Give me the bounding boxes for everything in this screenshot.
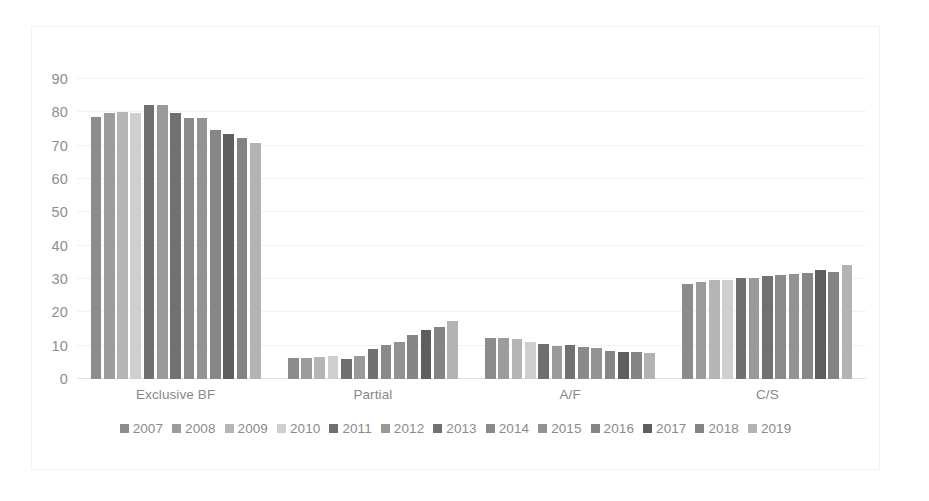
bar-2009-partial[interactable] xyxy=(314,357,325,379)
bar-2010-a-f[interactable] xyxy=(525,342,536,379)
bar-2011-c-s[interactable] xyxy=(736,278,747,379)
bar-2019-exclusive-bf[interactable] xyxy=(250,143,261,379)
legend-swatch-icon-2009 xyxy=(225,424,234,433)
legend-item-2016[interactable]: 2016 xyxy=(591,421,634,436)
bar-2019-partial[interactable] xyxy=(447,321,458,379)
legend-item-2007[interactable]: 2007 xyxy=(120,421,163,436)
bar-2012-a-f[interactable] xyxy=(552,346,563,379)
bar-2009-exclusive-bf[interactable] xyxy=(117,112,128,379)
y-tick-label-80: 80 xyxy=(51,104,68,120)
bar-2007-exclusive-bf[interactable] xyxy=(91,117,102,379)
legend-swatch-icon-2016 xyxy=(591,424,600,433)
bar-2015-partial[interactable] xyxy=(394,342,405,379)
bar-2016-partial[interactable] xyxy=(407,335,418,379)
bar-2008-a-f[interactable] xyxy=(498,338,509,379)
bar-2011-exclusive-bf[interactable] xyxy=(144,105,155,379)
bar-2018-a-f[interactable] xyxy=(631,352,642,379)
legend-label-2017: 2017 xyxy=(656,421,686,436)
bar-2012-c-s[interactable] xyxy=(749,278,760,379)
legend-swatch-icon-2015 xyxy=(538,424,547,433)
bar-2013-a-f[interactable] xyxy=(565,345,576,379)
bar-2010-partial[interactable] xyxy=(328,356,339,379)
legend-item-2018[interactable]: 2018 xyxy=(695,421,738,436)
legend-swatch-icon-2013 xyxy=(433,424,442,433)
legend-swatch-icon-2014 xyxy=(486,424,495,433)
bar-2016-exclusive-bf[interactable] xyxy=(210,130,221,379)
bar-group-partial xyxy=(287,79,460,379)
bar-2017-exclusive-bf[interactable] xyxy=(223,134,234,379)
bar-2016-a-f[interactable] xyxy=(605,351,616,379)
bar-2010-c-s[interactable] xyxy=(722,280,733,379)
bar-2007-partial[interactable] xyxy=(288,358,299,379)
y-tick-label-50: 50 xyxy=(51,204,68,220)
legend-label-2013: 2013 xyxy=(446,421,476,436)
bar-2015-exclusive-bf[interactable] xyxy=(197,118,208,379)
legend-item-2010[interactable]: 2010 xyxy=(277,421,320,436)
bar-2017-a-f[interactable] xyxy=(618,352,629,379)
bar-2009-a-f[interactable] xyxy=(512,339,523,379)
legend-label-2019: 2019 xyxy=(761,421,791,436)
legend-item-2009[interactable]: 2009 xyxy=(225,421,268,436)
bar-2011-a-f[interactable] xyxy=(538,344,549,379)
category-label-exclusive-bf: Exclusive BF xyxy=(136,387,215,402)
bar-2012-exclusive-bf[interactable] xyxy=(157,105,168,379)
bar-2017-partial[interactable] xyxy=(421,330,432,379)
bar-group-exclusive-bf xyxy=(89,79,262,379)
chart-container: 9080706050403020100 Exclusive BFPartialA… xyxy=(31,26,880,470)
legend-item-2012[interactable]: 2012 xyxy=(381,421,424,436)
bar-2015-a-f[interactable] xyxy=(591,348,602,379)
chart-legend: 2007200820092010201120122013201420152016… xyxy=(32,421,879,436)
bar-2013-c-s[interactable] xyxy=(762,276,773,379)
category-label-a-f: A/F xyxy=(559,387,580,402)
legend-label-2010: 2010 xyxy=(290,421,320,436)
bar-group-a-f xyxy=(484,79,657,379)
legend-label-2009: 2009 xyxy=(238,421,268,436)
bar-2007-a-f[interactable] xyxy=(485,338,496,379)
legend-swatch-icon-2010 xyxy=(277,424,286,433)
legend-swatch-icon-2008 xyxy=(172,424,181,433)
legend-item-2008[interactable]: 2008 xyxy=(172,421,215,436)
legend-item-2014[interactable]: 2014 xyxy=(486,421,529,436)
y-tick-label-0: 0 xyxy=(60,371,68,387)
category-label-partial: Partial xyxy=(353,387,392,402)
legend-item-2015[interactable]: 2015 xyxy=(538,421,581,436)
bar-2013-partial[interactable] xyxy=(368,349,379,379)
legend-item-2017[interactable]: 2017 xyxy=(643,421,686,436)
bar-2012-partial[interactable] xyxy=(354,356,365,379)
legend-item-2011[interactable]: 2011 xyxy=(329,421,371,436)
bar-2008-c-s[interactable] xyxy=(696,282,707,379)
bar-2009-c-s[interactable] xyxy=(709,280,720,379)
legend-label-2008: 2008 xyxy=(185,421,215,436)
bar-2019-c-s[interactable] xyxy=(842,265,853,379)
bar-2017-c-s[interactable] xyxy=(815,270,826,379)
bar-2008-partial[interactable] xyxy=(301,358,312,379)
legend-swatch-icon-2018 xyxy=(695,424,704,433)
bar-2019-a-f[interactable] xyxy=(644,353,655,379)
bar-2008-exclusive-bf[interactable] xyxy=(104,113,115,379)
bar-2011-partial[interactable] xyxy=(341,359,352,379)
bar-2018-exclusive-bf[interactable] xyxy=(237,138,248,379)
bar-2014-a-f[interactable] xyxy=(578,347,589,379)
legend-label-2016: 2016 xyxy=(604,421,634,436)
bar-2014-c-s[interactable] xyxy=(775,275,786,379)
bar-2010-exclusive-bf[interactable] xyxy=(130,113,141,379)
legend-label-2012: 2012 xyxy=(394,421,424,436)
bar-2007-c-s[interactable] xyxy=(682,284,693,379)
y-tick-label-60: 60 xyxy=(51,171,68,187)
legend-label-2007: 2007 xyxy=(133,421,163,436)
legend-label-2011: 2011 xyxy=(342,421,371,436)
legend-label-2018: 2018 xyxy=(708,421,738,436)
bar-2014-partial[interactable] xyxy=(381,345,392,379)
bar-groups xyxy=(77,79,866,379)
bar-2015-c-s[interactable] xyxy=(789,274,800,379)
y-tick-label-40: 40 xyxy=(51,238,68,254)
legend-item-2019[interactable]: 2019 xyxy=(748,421,791,436)
bar-group-c-s xyxy=(681,79,854,379)
bar-2014-exclusive-bf[interactable] xyxy=(184,118,195,379)
y-tick-label-10: 10 xyxy=(51,338,68,354)
bar-2016-c-s[interactable] xyxy=(802,273,813,379)
bar-2018-partial[interactable] xyxy=(434,327,445,379)
legend-item-2013[interactable]: 2013 xyxy=(433,421,476,436)
bar-2018-c-s[interactable] xyxy=(828,272,839,379)
bar-2013-exclusive-bf[interactable] xyxy=(170,113,181,379)
